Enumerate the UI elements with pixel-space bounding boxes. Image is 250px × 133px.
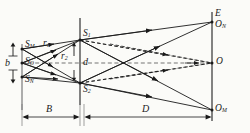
label-ray-r2: r2 <box>61 52 68 62</box>
dashed-rays-to-center <box>80 40 212 83</box>
label-distance-B: B <box>46 104 52 114</box>
label-slit-bot: S2 <box>83 85 91 95</box>
label-slit-separation-d: d <box>83 57 88 67</box>
label-screen-point-top: ON <box>215 20 226 30</box>
label-screen-E: E <box>215 9 221 19</box>
label-ray-r1: r1 <box>43 39 50 49</box>
label-source-bot: SN <box>25 75 34 85</box>
label-screen-point-bot: OM <box>215 104 227 114</box>
label-source-mid: SO <box>25 57 34 67</box>
dimension-d <box>72 43 76 82</box>
label-source-top: SM <box>25 40 35 50</box>
label-screen-point-center: O <box>216 57 223 67</box>
label-distance-D: D <box>142 104 149 114</box>
label-source-width-b: b <box>5 58 10 68</box>
label-slit-top: S1 <box>83 29 91 39</box>
optics-diagram <box>0 0 250 133</box>
